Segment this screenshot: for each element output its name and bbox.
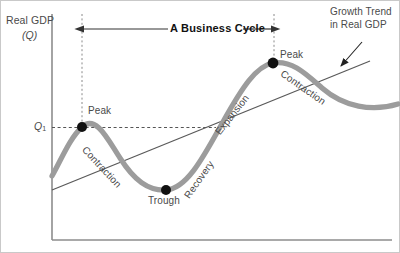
y-tick-label-q1: Q1: [34, 120, 46, 135]
trough-dot: [161, 185, 171, 195]
business-cycle-figure: Real GDP (Q) Q1 A Business Cycle Growth …: [0, 0, 400, 253]
peak-1-dot: [77, 122, 87, 132]
figure-border: [1, 1, 400, 253]
peak-2-label: Peak: [280, 49, 303, 61]
y-axis-label-line1: Real GDP: [6, 14, 54, 26]
cycle-span-label: A Business Cycle: [170, 22, 265, 34]
peak-2-dot: [268, 58, 279, 69]
y-axis-label-line2: (Q): [22, 29, 37, 41]
trough-label: Trough: [148, 195, 180, 207]
diagram-canvas: [0, 0, 400, 253]
y-tick-subscript-1: 1: [42, 125, 46, 132]
growth-trend-callout-arrow: [341, 42, 362, 66]
growth-trend-label-line1: Growth Trend: [330, 6, 392, 18]
peak-1-label: Peak: [88, 105, 111, 117]
growth-trend-label-line2: in Real GDP: [330, 19, 387, 31]
